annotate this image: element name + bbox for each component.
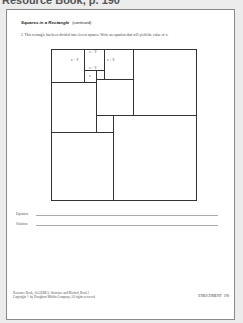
heading-note: (continued) xyxy=(72,21,91,25)
label-right: x + 9 xyxy=(107,58,114,62)
solution-line[interactable] xyxy=(36,225,218,226)
solution-label: Solution xyxy=(16,222,28,226)
worksheet-heading: Squares in a Rectangle(continued) xyxy=(21,20,91,25)
problem-text: 2. This rectangle has been divided into … xyxy=(21,33,168,37)
footer-page: ENRICHMENT 190 xyxy=(198,294,229,298)
equation-label: Equation xyxy=(16,212,28,216)
square-bottom-right xyxy=(113,115,197,201)
square-bottom-left xyxy=(51,132,114,201)
square-upper-middle xyxy=(104,49,134,80)
page-title: Resource Book, p. 190 xyxy=(2,0,120,6)
heading-text: Squares in a Rectangle xyxy=(21,20,69,25)
square-center xyxy=(96,79,134,116)
square-top-right xyxy=(133,49,197,116)
footer-page-number: 190 xyxy=(224,294,229,298)
equation-line[interactable] xyxy=(36,215,218,216)
label-left: x + 9 xyxy=(71,58,78,62)
square-left-middle xyxy=(51,82,97,133)
square-small-middle xyxy=(96,115,114,133)
footer-credits: Resource Book, ALGEBRA: Structure and Me… xyxy=(13,291,96,299)
dotted-fill: · · ·· · xyxy=(86,72,90,87)
label-top: x + 9 xyxy=(89,50,96,54)
footer-section: ENRICHMENT xyxy=(198,294,222,298)
label-bottom: x + 9 xyxy=(89,66,96,70)
footer-line-2: Copyright © by Houghton Mifflin Company.… xyxy=(13,295,96,299)
square-top-left xyxy=(51,49,85,83)
